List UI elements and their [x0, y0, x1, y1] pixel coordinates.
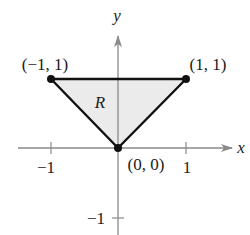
vertex-1-1-dot — [182, 75, 190, 83]
vertex-neg1-1-dot — [47, 75, 55, 83]
y-tick-label-neg1: −1 — [87, 209, 105, 228]
x-tick-label-1: 1 — [183, 158, 192, 177]
region-label: R — [94, 93, 106, 112]
vertex-label-origin: (0, 0) — [128, 155, 165, 174]
vertex-origin-dot — [114, 144, 122, 152]
x-axis-label: x — [236, 138, 245, 157]
y-axis-label: y — [111, 6, 121, 25]
coordinate-diagram: y x −1 1 −1 (−1, 1) (1, 1) (0, 0) R — [0, 0, 250, 235]
vertex-label-1-1: (1, 1) — [190, 55, 227, 74]
vertex-label-neg1-1: (−1, 1) — [22, 55, 68, 74]
x-tick-label-neg1: −1 — [37, 158, 55, 177]
